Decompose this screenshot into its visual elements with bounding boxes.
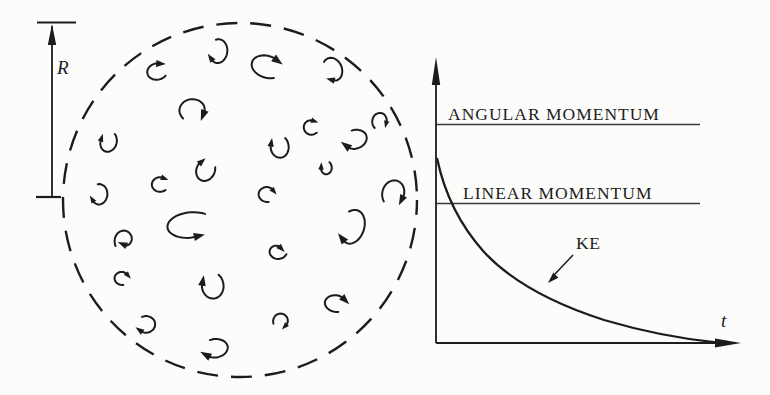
eddy-arrowhead-icon [399,194,407,205]
eddy-arrowhead-icon [310,118,318,123]
eddy-arrowhead-icon [201,109,209,121]
figure-canvas: R ANGULAR MOMENTUM LINEAR MOMENTUM KE t [0,0,770,395]
graph-panel: ANGULAR MOMENTUM LINEAR MOMENTUM KE t [432,57,741,348]
x-axis-arrowhead-icon [715,338,741,347]
linear-momentum-label: LINEAR MOMENTUM [463,183,653,203]
eddy-arrowhead-icon [98,134,103,142]
ke-pointer-arrowhead-icon [548,272,558,283]
eddy-arrowhead-icon [200,352,212,361]
eddy-arrowhead-icon [118,242,128,249]
eddy-arrow [202,275,224,299]
eddy-arrowhead-icon [160,175,168,180]
eddy-arrowhead-icon [136,327,145,335]
eddy-arrowhead-icon [268,138,274,147]
turbulence-panel: R [36,23,417,378]
eddy-arrowhead-icon [198,275,206,286]
eddy-arrowhead-icon [271,55,283,65]
eddy-arrowhead-icon [156,60,166,67]
time-axis-label: t [721,310,727,331]
ke-pointer-line [555,255,573,274]
eddies-group [90,39,407,361]
eddy-arrowhead-icon [193,233,205,241]
eddy-arrow [324,58,342,81]
figure-turbulence-decay: R ANGULAR MOMENTUM LINEAR MOMENTUM KE t [0,0,770,395]
eddy-arrow [271,138,289,158]
radius-up-arrowhead-icon [48,24,56,45]
radius-label: R [56,57,69,78]
turbulence-dashed-circle [63,23,417,377]
radius-dimension: R [36,23,76,198]
eddy-arrow [196,162,215,181]
y-axis-arrowhead-icon [432,57,440,85]
ke-label: KE [576,233,600,253]
eddy-arrowhead-icon [318,162,323,170]
eddy-arrowhead-icon [326,78,335,84]
angular-momentum-label: ANGULAR MOMENTUM [448,104,660,124]
eddy-arrow [180,99,205,118]
eddy-arrowhead-icon [341,142,352,152]
eddy-arrowhead-icon [384,120,389,128]
